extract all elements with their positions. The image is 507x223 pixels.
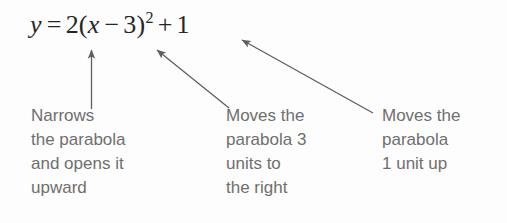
arrow-to-horizontal-shift: [157, 50, 229, 108]
annotation-moves-right-line-3: units to: [226, 152, 306, 176]
annotation-narrows-line-2: the parabola: [31, 128, 126, 152]
arrow-to-vertical-shift: [242, 40, 373, 113]
annotation-moves-right: Moves the parabola 3 units to the right: [226, 104, 306, 200]
annotation-narrows-line-1: Narrows: [31, 104, 126, 128]
annotation-narrows-line-4: upward: [31, 176, 126, 200]
annotation-moves-up-line-3: 1 unit up: [382, 152, 460, 176]
figure-canvas: y=2(x−3)2+1 Narrows the parabola and ope…: [0, 0, 507, 223]
annotation-narrows: Narrows the parabola and opens it upward: [31, 104, 126, 200]
annotation-moves-up: Moves the parabola 1 unit up: [382, 104, 460, 176]
annotation-moves-up-line-1: Moves the: [382, 104, 460, 128]
annotation-moves-right-line-1: Moves the: [226, 104, 306, 128]
annotation-moves-right-line-4: the right: [226, 176, 306, 200]
annotation-narrows-line-3: and opens it: [31, 152, 126, 176]
annotation-moves-up-line-2: parabola: [382, 128, 460, 152]
annotation-moves-right-line-2: parabola 3: [226, 128, 306, 152]
